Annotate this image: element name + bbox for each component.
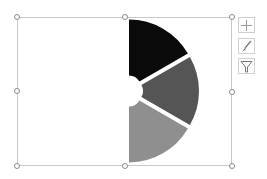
plus-icon — [240, 19, 253, 32]
chart-elements-button[interactable] — [238, 17, 255, 33]
filter-icon — [240, 60, 253, 73]
chart-styles-button[interactable] — [238, 38, 255, 54]
brush-icon — [240, 40, 253, 53]
chart-filters-button[interactable] — [238, 58, 255, 74]
pie-chart — [0, 0, 267, 179]
